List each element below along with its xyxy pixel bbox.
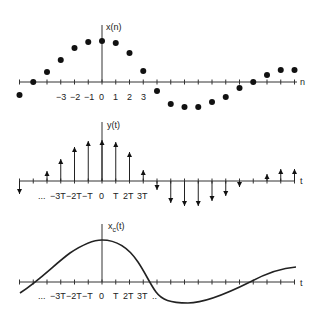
sample-dot bbox=[292, 67, 298, 73]
impulse-arrowhead-icon bbox=[210, 196, 215, 201]
tick-label: 2T bbox=[123, 291, 134, 301]
panel-impulse-train: y(t) t ... −3T −2T −T 0 T 2T 3T bbox=[17, 120, 303, 206]
tick-label: −T bbox=[82, 291, 93, 301]
sample-dot bbox=[113, 40, 119, 46]
sample-dot bbox=[182, 104, 188, 110]
tick-label: −1 bbox=[84, 92, 94, 102]
tick-label: 0 bbox=[99, 291, 104, 301]
impulse-arrowhead-icon bbox=[127, 152, 132, 157]
impulse-arrowhead-icon bbox=[58, 159, 63, 164]
t-axis-label-mid: t bbox=[300, 176, 303, 186]
n-axis-label: n bbox=[300, 77, 305, 87]
impulse-arrowhead-icon bbox=[237, 182, 242, 187]
impulse-arrowhead-icon bbox=[278, 169, 283, 174]
impulse-arrowhead-icon bbox=[86, 141, 91, 146]
tick-label: T bbox=[113, 291, 119, 301]
tick-label: −2T bbox=[66, 291, 82, 301]
tick-label: −T bbox=[82, 191, 93, 201]
sample-dot bbox=[154, 88, 160, 94]
sample-dot bbox=[17, 92, 23, 98]
sample-dot bbox=[237, 85, 243, 91]
sample-dot bbox=[195, 104, 201, 110]
tick-label: ... bbox=[38, 291, 46, 301]
sample-dot bbox=[278, 67, 284, 73]
xct-title: xc(t) bbox=[108, 221, 125, 233]
impulse-arrowhead-icon bbox=[17, 189, 22, 194]
sample-dot bbox=[127, 50, 133, 56]
impulse-arrowhead-icon bbox=[45, 171, 50, 176]
sample-dot bbox=[99, 38, 105, 44]
impulse-arrowhead-icon bbox=[141, 170, 146, 175]
tick-label: .. bbox=[152, 291, 157, 301]
tick-label: T bbox=[113, 191, 119, 201]
tick-label: 3T bbox=[137, 291, 148, 301]
tick-label: −2 bbox=[70, 92, 80, 102]
panel-discrete-signal: x(n) n −3 −2 −1 0 1 2 3 bbox=[17, 22, 306, 110]
t-axis-label-bottom: t bbox=[300, 278, 303, 288]
sample-dot bbox=[168, 101, 174, 107]
impulse-arrowhead-icon bbox=[292, 169, 297, 174]
impulse-arrowhead-icon bbox=[113, 142, 118, 147]
tick-label: 3T bbox=[137, 191, 148, 201]
sample-dot bbox=[85, 39, 91, 45]
sampling-diagram: x(n) n −3 −2 −1 0 1 2 3 y(t) t ... −3T −… bbox=[0, 0, 322, 321]
tick-label: 0 bbox=[99, 92, 104, 102]
impulse-arrowhead-icon bbox=[72, 147, 77, 152]
sample-dot bbox=[30, 79, 36, 85]
impulse-arrowhead-icon bbox=[155, 185, 160, 190]
impulse-arrowhead-icon bbox=[196, 201, 201, 206]
panel-continuous-signal: xc(t) t ... −3T −2T −T 0 T 2T 3T .. bbox=[20, 221, 304, 303]
tick-label: −3T bbox=[50, 191, 66, 201]
tick-label: −2T bbox=[66, 191, 82, 201]
xn-title: x(n) bbox=[106, 22, 122, 32]
sample-dot bbox=[140, 68, 146, 74]
tick-label: ... bbox=[38, 191, 46, 201]
tick-label: 2 bbox=[127, 92, 132, 102]
n-tick-labels: −3 −2 −1 0 1 2 3 bbox=[56, 92, 146, 102]
tick-label: 0 bbox=[99, 191, 104, 201]
t-tick-labels-mid: ... −3T −2T −T 0 T 2T 3T bbox=[38, 191, 148, 201]
sample-dot bbox=[264, 72, 270, 78]
tick-label: 2T bbox=[123, 191, 134, 201]
sample-dot bbox=[209, 99, 215, 105]
tick-label: 3 bbox=[141, 92, 146, 102]
sample-dot bbox=[44, 69, 50, 75]
impulse-arrowhead-icon bbox=[168, 198, 173, 203]
sample-dot bbox=[250, 79, 256, 85]
tick-label: 1 bbox=[113, 92, 118, 102]
impulse-arrowhead-icon bbox=[182, 201, 187, 206]
impulse-arrowhead-icon bbox=[100, 140, 105, 145]
t-tick-labels-bottom: ... −3T −2T −T 0 T 2T 3T .. bbox=[38, 291, 157, 301]
tick-label: −3 bbox=[56, 92, 66, 102]
tick-label: −3T bbox=[50, 291, 66, 301]
sample-dot bbox=[58, 57, 64, 63]
sample-dot bbox=[72, 45, 78, 51]
impulse-arrowhead-icon bbox=[223, 191, 228, 196]
sample-dot bbox=[223, 94, 229, 100]
yt-title: y(t) bbox=[107, 120, 120, 130]
impulse-arrowhead-icon bbox=[265, 174, 270, 179]
